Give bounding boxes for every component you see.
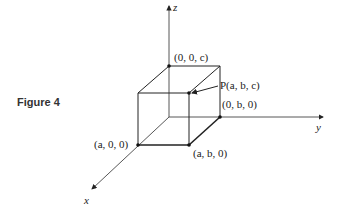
label-a-b-0: (a, b, 0)	[193, 147, 228, 160]
label-a-0-0: (a, 0, 0)	[94, 138, 129, 151]
vertex-dot	[218, 115, 222, 119]
figure-canvas: Figure 4 z y x (0, 0, c) P(a, b, c) (0, …	[0, 0, 340, 214]
z-axis-label: z	[172, 1, 178, 13]
figure-caption: Figure 4	[17, 96, 61, 108]
label-0-0-c: (0, 0, c)	[174, 51, 209, 64]
vertex-dot	[136, 143, 140, 147]
label-p-a-b-c: P(a, b, c)	[220, 79, 260, 92]
label-0-b-0: (0, b, 0)	[222, 98, 257, 111]
y-axis-label: y	[315, 121, 321, 133]
box-edge	[189, 117, 220, 145]
box-edge	[189, 66, 220, 93]
vertex-dot	[187, 91, 191, 95]
x-axis	[92, 117, 169, 189]
vertex-dot	[187, 143, 191, 147]
box-edge	[138, 66, 169, 93]
vertex-dot	[167, 64, 171, 68]
x-axis-label: x	[83, 194, 89, 206]
